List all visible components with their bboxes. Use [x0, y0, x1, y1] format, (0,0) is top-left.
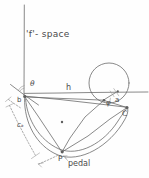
node-a-dot [117, 90, 119, 92]
point-b-label: b [17, 97, 21, 104]
node-mid-dot [61, 121, 63, 123]
chord-p-to-c [63, 108, 127, 152]
f-space-label: 'f'- space [26, 30, 70, 39]
length-ca-label: cₐ [17, 122, 24, 129]
arrow-to-p-dashed [39, 156, 58, 165]
point-p-label: P [58, 155, 63, 163]
geometry-figure [0, 0, 149, 178]
node-vertex-dot [103, 99, 106, 102]
node-p-dot [61, 150, 64, 153]
ray-vertex-to-p [62, 100, 104, 151]
outer-pedal-curve [25, 99, 128, 158]
diagram-canvas: 'f'- space θ b h a φ C cₐ P pedal [0, 0, 149, 178]
chord-b-to-p [25, 97, 62, 151]
pedal-label: pedal [68, 160, 90, 168]
horizontal-axis-line [25, 92, 149, 93]
dimension-tick-ca-bottom [32, 153, 40, 159]
point-c-label: C [122, 110, 127, 118]
angle-theta-label: θ [30, 80, 35, 88]
dimension-tick-b [6, 97, 12, 102]
segment-a-label: a [115, 97, 119, 104]
segment-h-label: h [66, 84, 71, 92]
node-b-dot [23, 95, 26, 98]
angle-phi-label: φ [106, 100, 111, 107]
angle-theta-arc-inner [20, 88, 24, 91]
